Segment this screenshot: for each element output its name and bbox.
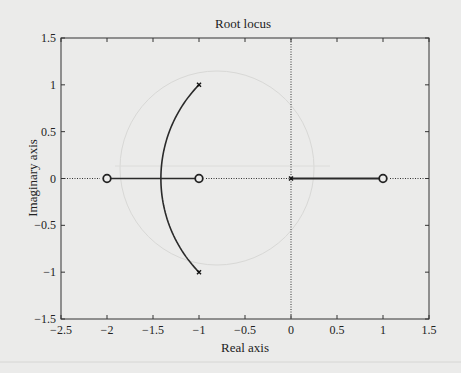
y-axis-title: Imaginary axis	[25, 139, 40, 217]
x-tick-label: −2	[101, 323, 114, 337]
pole-marker	[197, 83, 201, 87]
y-tick-label: 1	[50, 78, 56, 92]
y-tick-label: 0	[50, 172, 56, 186]
x-tick-label: −1	[193, 323, 206, 337]
locus-branches	[107, 85, 383, 272]
pole-marker	[197, 270, 201, 274]
x-tick-label: 1	[380, 323, 386, 337]
y-tick-label: 1.5	[41, 31, 56, 45]
y-tick-label: 0.5	[41, 125, 56, 139]
x-tick-label: 1.5	[422, 323, 437, 337]
chart-title: Root locus	[215, 16, 271, 31]
x-tick-label: 0	[288, 323, 294, 337]
paper-ghost-artifacts	[0, 71, 461, 362]
x-tick-label: −0.5	[234, 323, 256, 337]
x-tick-label: 0.5	[330, 323, 345, 337]
zero-marker	[195, 175, 203, 183]
y-tick-label: −1.5	[34, 312, 56, 326]
x-axis-ticks: −2.5−2−1.5−1−0.500.511.5	[50, 38, 436, 337]
y-tick-label: −0.5	[34, 218, 56, 232]
root-locus-chart: Root locus −2.5−2−1.5−1−0.500.511.5 −1.5…	[0, 0, 461, 373]
zero-marker	[379, 175, 387, 183]
zero-marker	[103, 175, 111, 183]
x-tick-label: −1.5	[142, 323, 164, 337]
x-axis-title: Real axis	[221, 340, 269, 355]
y-tick-label: −1	[43, 265, 56, 279]
